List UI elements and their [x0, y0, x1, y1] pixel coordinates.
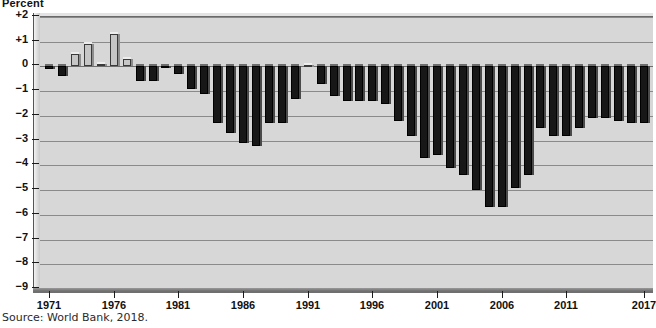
- bar-2003: [459, 66, 467, 175]
- bar-2016: [627, 66, 635, 123]
- bar-2002: [446, 66, 454, 167]
- y-label--3: −3: [4, 132, 28, 144]
- bar-face: [485, 66, 493, 207]
- x-label-2017: 2017: [632, 299, 656, 311]
- plot-area: [40, 16, 653, 288]
- bar-side: [480, 66, 482, 190]
- bar-face: [265, 66, 273, 123]
- bar-side: [338, 66, 340, 96]
- bar-side: [208, 66, 210, 93]
- bar-2013: [588, 66, 596, 118]
- x-label-2006: 2006: [490, 299, 514, 311]
- bar-side: [557, 66, 559, 135]
- bar-side: [596, 66, 598, 118]
- x-tick-1996: [372, 291, 373, 298]
- y-label--4: −4: [4, 156, 28, 168]
- bar-side: [273, 66, 275, 123]
- bar-2010: [549, 66, 557, 135]
- y-tick--9: [32, 287, 39, 288]
- bar-face: [549, 66, 557, 135]
- bar-side: [635, 66, 637, 123]
- bar-1978: [136, 66, 144, 81]
- x-tick-2006: [502, 291, 503, 298]
- bar-side: [454, 66, 456, 167]
- bar-side: [144, 66, 146, 81]
- y-tick--5: [32, 188, 39, 189]
- bar-face: [304, 65, 312, 67]
- bar-1983: [200, 66, 208, 93]
- y-tick--7: [32, 238, 39, 239]
- bar-side: [441, 66, 443, 155]
- bar-face: [123, 59, 131, 66]
- gridline--4: [40, 165, 653, 166]
- y-tick--4: [32, 163, 39, 164]
- bar-side: [260, 66, 262, 145]
- gridline-1: [40, 42, 653, 43]
- bar-side: [648, 66, 650, 123]
- y-label--5: −5: [4, 181, 28, 193]
- bar-face: [45, 66, 53, 68]
- bar-face: [97, 64, 105, 66]
- y-tick--2: [32, 114, 39, 115]
- bar-side: [428, 66, 430, 157]
- bar-1975: [97, 64, 105, 66]
- bar-1984: [213, 66, 221, 123]
- bar-side: [157, 66, 159, 81]
- bar-side: [195, 66, 197, 88]
- bar-side: [376, 66, 378, 101]
- bar-side: [221, 66, 223, 123]
- bar-face: [278, 66, 286, 123]
- x-tick-1981: [178, 291, 179, 298]
- bar-face: [226, 66, 234, 133]
- bar-2000: [420, 66, 428, 157]
- bar-face: [291, 66, 299, 98]
- bar-1981: [174, 66, 182, 73]
- bar-side: [234, 66, 236, 133]
- bar-face: [161, 66, 169, 68]
- bar-face: [446, 66, 454, 167]
- bar-2008: [524, 66, 532, 175]
- y-label-1: +1: [4, 33, 28, 45]
- bar-face: [575, 66, 583, 128]
- y-tick--3: [32, 139, 39, 140]
- bar-side: [118, 34, 120, 66]
- bar-face: [213, 66, 221, 123]
- y-tick--8: [32, 262, 39, 263]
- bar-side: [544, 66, 546, 128]
- x-tick-1986: [243, 291, 244, 298]
- bar-face: [149, 66, 157, 81]
- bar-1996: [368, 66, 376, 101]
- bar-1991: [304, 65, 312, 67]
- gridline-2: [40, 17, 653, 18]
- y-label--6: −6: [4, 206, 28, 218]
- bar-side: [53, 66, 55, 68]
- x-tick-1971: [49, 291, 50, 298]
- bar-face: [459, 66, 467, 175]
- x-tick-2017: [644, 291, 645, 298]
- bar-side: [570, 66, 572, 135]
- bar-1992: [317, 66, 325, 83]
- bar-face: [627, 66, 635, 123]
- x-label-2011: 2011: [554, 299, 578, 311]
- gridline--2: [40, 116, 653, 117]
- y-label--8: −8: [4, 255, 28, 267]
- bar-side: [532, 66, 534, 175]
- y-tick--1: [32, 89, 39, 90]
- bar-2004: [472, 66, 480, 190]
- bar-2005: [485, 66, 493, 207]
- x-label-1996: 1996: [360, 299, 384, 311]
- bar-face: [524, 66, 532, 175]
- bar-side: [583, 66, 585, 128]
- x-tick-2001: [437, 291, 438, 298]
- gridline--8: [40, 264, 653, 265]
- bar-1979: [149, 66, 157, 81]
- plot-left-wall: [33, 13, 40, 291]
- bar-side: [247, 66, 249, 143]
- x-label-2001: 2001: [425, 299, 449, 311]
- bar-face: [368, 66, 376, 101]
- bar-1999: [407, 66, 415, 135]
- bar-face: [433, 66, 441, 155]
- bar-face: [420, 66, 428, 157]
- y-tick-0: [32, 64, 39, 65]
- bar-1997: [381, 66, 389, 103]
